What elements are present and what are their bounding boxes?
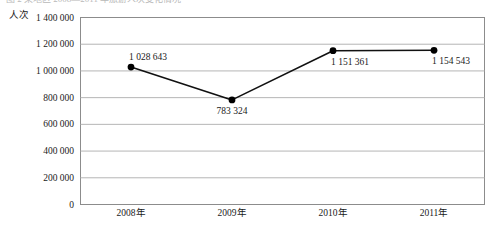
data-point-marker <box>330 47 337 54</box>
x-axis-tick-label: 2008年 <box>91 208 171 219</box>
data-point-label: 1 151 361 <box>331 57 369 68</box>
data-point-label: 1 028 643 <box>129 52 167 63</box>
x-axis-tick-label: 2011年 <box>394 208 474 219</box>
y-axis-tick-label: 1 000 000 <box>12 66 74 76</box>
x-axis-tick-label: 2010年 <box>293 208 373 219</box>
data-point-marker <box>431 47 438 54</box>
y-axis-tick-label: 200 000 <box>12 173 74 183</box>
y-axis-tick-label: 800 000 <box>12 93 74 103</box>
x-axis-tick-label: 2009年 <box>192 208 272 219</box>
data-point-marker <box>229 97 236 104</box>
plot-frame <box>81 18 485 205</box>
y-axis-tick-label: 400 000 <box>12 146 74 156</box>
y-axis-tick-label: 1 200 000 <box>12 39 74 49</box>
data-point-label: 783 324 <box>192 106 272 117</box>
y-axis-tick-label: 0 <box>12 200 74 210</box>
data-point-marker <box>128 64 135 71</box>
y-axis-tick-label: 1 400 000 <box>12 13 74 23</box>
y-axis-tick-label: 600 000 <box>12 119 74 129</box>
data-point-label: 1 154 543 <box>432 56 470 67</box>
line-chart: 图 2 某地区 2008—2011 年旅游人次变化情况 人次 0200 0004… <box>0 0 494 226</box>
